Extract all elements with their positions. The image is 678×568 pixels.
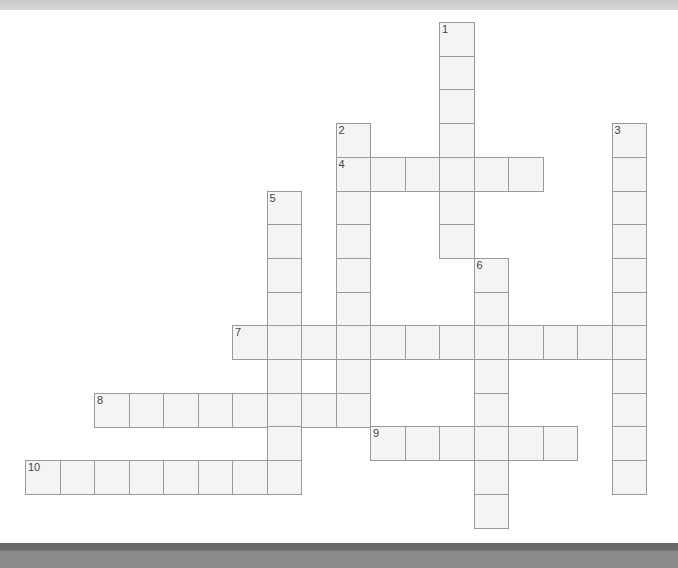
crossword-cell[interactable]: 6	[474, 258, 510, 293]
crossword-cell[interactable]: 2	[336, 123, 372, 158]
crossword-cell[interactable]	[405, 426, 441, 461]
crossword-cell[interactable]	[336, 393, 372, 428]
crossword-cell[interactable]	[474, 494, 510, 529]
crossword-cell[interactable]	[198, 393, 234, 428]
crossword-cell[interactable]	[370, 325, 406, 360]
crossword-cell[interactable]: 3	[612, 123, 648, 158]
crossword-cell[interactable]	[508, 157, 544, 192]
crossword-cell[interactable]	[267, 292, 303, 327]
crossword-cell[interactable]	[439, 157, 475, 192]
crossword-cell[interactable]: 1	[439, 22, 475, 57]
crossword-cell[interactable]: 5	[267, 191, 303, 226]
crossword-cell[interactable]	[405, 157, 441, 192]
crossword-cell[interactable]	[612, 359, 648, 394]
crossword-grid: 12435678910	[0, 0, 678, 543]
crossword-cell[interactable]	[267, 224, 303, 259]
crossword-cell[interactable]	[474, 393, 510, 428]
crossword-cell[interactable]	[267, 359, 303, 394]
crossword-cell[interactable]	[267, 393, 303, 428]
clue-number: 2	[339, 125, 345, 136]
crossword-cell[interactable]	[301, 325, 337, 360]
clue-number: 1	[442, 24, 448, 35]
crossword-cell[interactable]	[163, 460, 199, 495]
crossword-cell[interactable]: 7	[232, 325, 268, 360]
crossword-cell[interactable]: 8	[94, 393, 130, 428]
bottom-border-band	[0, 543, 678, 568]
crossword-cell[interactable]	[474, 460, 510, 495]
crossword-cell[interactable]	[439, 426, 475, 461]
crossword-cell[interactable]	[612, 292, 648, 327]
clue-number: 6	[477, 260, 483, 271]
crossword-cell[interactable]	[336, 292, 372, 327]
crossword-cell[interactable]	[439, 89, 475, 124]
clue-number: 5	[270, 193, 276, 204]
crossword-cell[interactable]	[543, 325, 579, 360]
crossword-cell[interactable]	[198, 460, 234, 495]
crossword-cell[interactable]	[267, 426, 303, 461]
clue-number: 7	[235, 327, 241, 338]
crossword-cell[interactable]	[474, 359, 510, 394]
crossword-cell[interactable]	[439, 224, 475, 259]
crossword-cell[interactable]	[474, 325, 510, 360]
crossword-cell[interactable]	[267, 258, 303, 293]
crossword-cell[interactable]	[336, 191, 372, 226]
crossword-cell[interactable]	[474, 426, 510, 461]
clue-number: 8	[97, 395, 103, 406]
crossword-cell[interactable]	[232, 393, 268, 428]
clue-number: 9	[373, 428, 379, 439]
crossword-cell[interactable]	[612, 258, 648, 293]
crossword-cell[interactable]	[612, 191, 648, 226]
crossword-cell[interactable]	[439, 191, 475, 226]
crossword-cell[interactable]	[129, 393, 165, 428]
crossword-cell[interactable]	[94, 460, 130, 495]
crossword-cell[interactable]	[612, 393, 648, 428]
crossword-cell[interactable]	[474, 157, 510, 192]
crossword-cell[interactable]: 10	[25, 460, 61, 495]
crossword-cell[interactable]: 4	[336, 157, 372, 192]
crossword-cell[interactable]	[612, 325, 648, 360]
crossword-cell[interactable]: 9	[370, 426, 406, 461]
clue-number: 3	[615, 125, 621, 136]
crossword-cell[interactable]	[612, 224, 648, 259]
crossword-cell[interactable]	[336, 224, 372, 259]
crossword-cell[interactable]	[543, 426, 579, 461]
crossword-cell[interactable]	[267, 325, 303, 360]
crossword-cell[interactable]	[508, 325, 544, 360]
crossword-cell[interactable]	[267, 460, 303, 495]
crossword-cell[interactable]	[336, 258, 372, 293]
crossword-cell[interactable]	[577, 325, 613, 360]
crossword-cell[interactable]	[612, 460, 648, 495]
crossword-cell[interactable]	[439, 325, 475, 360]
crossword-cell[interactable]	[612, 426, 648, 461]
crossword-cell[interactable]	[439, 56, 475, 91]
clue-number: 4	[339, 159, 345, 170]
crossword-cell[interactable]	[474, 292, 510, 327]
clue-number: 10	[28, 462, 40, 473]
crossword-cell[interactable]	[232, 460, 268, 495]
crossword-cell[interactable]	[405, 325, 441, 360]
crossword-cell[interactable]	[439, 123, 475, 158]
crossword-cell[interactable]	[129, 460, 165, 495]
crossword-cell[interactable]	[163, 393, 199, 428]
crossword-cell[interactable]	[612, 157, 648, 192]
crossword-cell[interactable]	[60, 460, 96, 495]
crossword-cell[interactable]	[370, 157, 406, 192]
crossword-cell[interactable]	[301, 393, 337, 428]
crossword-cell[interactable]	[336, 359, 372, 394]
crossword-cell[interactable]	[336, 325, 372, 360]
crossword-cell[interactable]	[508, 426, 544, 461]
